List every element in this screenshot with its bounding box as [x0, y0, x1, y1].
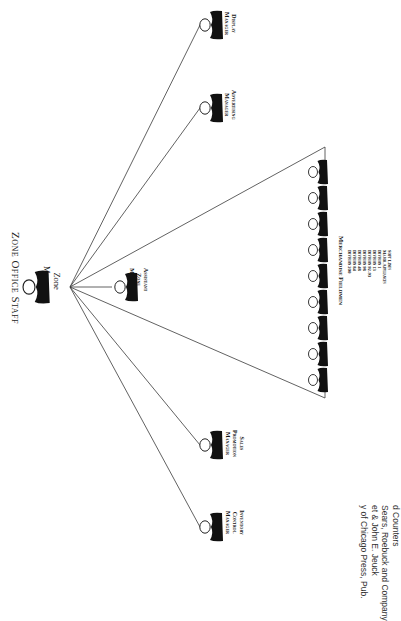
- chart-title: Zone Office Staff: [10, 232, 22, 324]
- merchandise-fieldmen-title: Merchandise Fieldmen: [338, 236, 345, 305]
- advertising-manager-label: Advertising Manager: [223, 90, 237, 120]
- merchandise-fieldmen-figures: [309, 160, 329, 393]
- advertising-manager-figure: [200, 94, 223, 123]
- connector-lines: [70, 25, 325, 527]
- sales-promotion-manager-label: Sales Promotion Manager: [224, 430, 245, 457]
- sales-promotion-manager-figure: [200, 431, 223, 460]
- inventory-control-manager-figure: [200, 513, 223, 542]
- inventory-control-manager-label: Inventory Control Manager: [224, 510, 245, 535]
- source-caption: d Counters Sears, Roebuck and Company et…: [359, 505, 401, 621]
- display-manager-figure: [200, 11, 223, 40]
- display-manager-label: Display Manager: [223, 12, 237, 35]
- zone-manager-label: Zone Manager: [42, 266, 62, 296]
- division-list: Soft Lines Major Appliances Division 1 D…: [347, 250, 392, 284]
- assistant-zone-manager-label: Assistant Zone Manager: [128, 268, 149, 291]
